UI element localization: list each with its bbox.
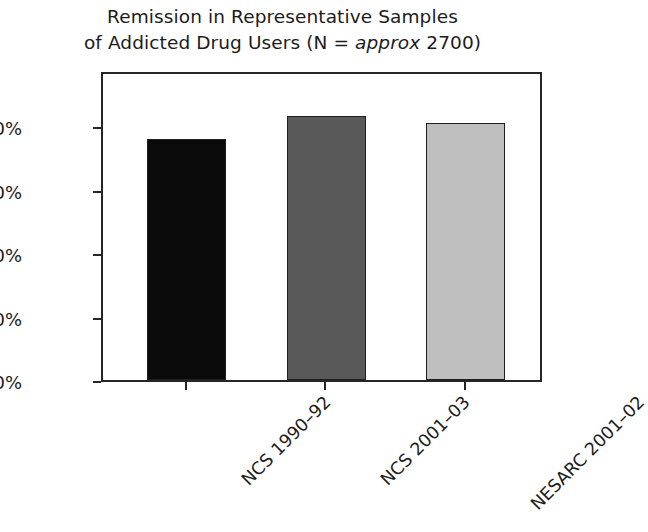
y-axis-tick-mark [93, 127, 101, 129]
bars-layer [103, 74, 540, 380]
chart-title-line-2-italic: approx [355, 32, 420, 53]
y-axis-tick-mark [93, 191, 101, 193]
y-axis-tick-label: 80% [0, 118, 22, 139]
chart-title-line-2-post: 2700) [420, 32, 481, 53]
y-axis-tick-label: 40% [0, 245, 22, 266]
x-axis-tick-mark [324, 382, 326, 390]
chart-title-line-2-pre: of Addicted Drug Users (N = [84, 32, 355, 53]
x-axis-tick-label: NCS 2001–03 [376, 392, 473, 489]
x-axis-tick-mark [185, 382, 187, 390]
bar [147, 139, 226, 380]
y-axis-tick-label: 20% [0, 308, 22, 329]
bar [287, 116, 366, 380]
chart-title-line-1: Remission in Representative Samples [0, 4, 565, 30]
bar [426, 123, 505, 380]
y-axis-tick-label: 0% [0, 372, 22, 393]
chart-title: Remission in Representative Samples of A… [0, 4, 565, 56]
chart-title-line-2: of Addicted Drug Users (N = approx 2700) [0, 30, 565, 56]
x-axis-tick-label: NCS 1990–92 [237, 392, 334, 489]
x-axis-tick-label: NESARC 2001–02 [526, 392, 648, 514]
plot-area [101, 72, 542, 382]
y-axis-tick-mark [93, 318, 101, 320]
y-axis-tick-label: 60% [0, 181, 22, 202]
y-axis-tick-mark [93, 381, 101, 383]
y-axis-tick-mark [93, 254, 101, 256]
x-axis-tick-mark [464, 382, 466, 390]
